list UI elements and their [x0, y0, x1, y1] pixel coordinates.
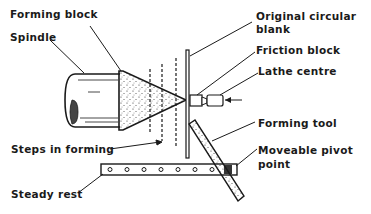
label-pivot-1: Moveable pivot — [258, 144, 353, 156]
label-steady-rest: Steady rest — [11, 188, 83, 200]
lathe-spinning-diagram: Forming block Spindle Original circular … — [0, 0, 371, 214]
label-pivot-2: point — [258, 158, 290, 170]
label-spindle: Spindle — [10, 31, 57, 43]
label-original-blank-1: Original circular — [256, 10, 356, 22]
original-blank — [186, 50, 189, 158]
label-forming-tool: Forming tool — [258, 117, 337, 129]
label-original-blank-2: blank — [256, 23, 290, 35]
friction-block — [190, 95, 202, 106]
force-arrowhead-icon — [225, 97, 231, 103]
spindle — [65, 74, 120, 127]
label-steps-in-forming: Steps in forming — [11, 143, 114, 155]
label-forming-block: Forming block — [10, 8, 98, 20]
label-friction-block: Friction block — [256, 44, 340, 56]
forming-tool — [189, 120, 244, 201]
label-lathe-centre: Lathe centre — [258, 65, 337, 77]
lathe-centre — [202, 95, 242, 106]
